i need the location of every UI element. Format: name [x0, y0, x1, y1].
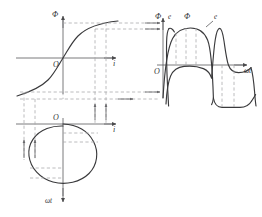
emf-label-leader: [206, 21, 213, 27]
current-origin-label: O: [53, 113, 59, 122]
flux-curve-label: Φ: [184, 12, 191, 21]
figure-container: Φ i O: [0, 0, 262, 217]
panel-current-versus-time: O i ωt: [16, 113, 116, 205]
magnetization-origin-label: O: [53, 60, 59, 69]
flux-lobe-positive: [163, 28, 213, 98]
flux-lobe-negative: [213, 98, 251, 107]
magnetization-y-axis-label: Φ: [52, 10, 59, 19]
flux-zero-cross: [212, 98, 214, 105]
panel-flux-emf-waveforms: Φ e Φ e O ωt: [154, 12, 256, 107]
projection-lines: [20, 23, 234, 178]
waveform-x-axis-label: ωt: [244, 67, 252, 75]
emf-rise-low: [166, 66, 212, 104]
emf-top-left-arc: [169, 28, 174, 32]
emf-curve-label: e: [214, 13, 218, 21]
magnetization-curve-path: [17, 21, 118, 96]
figure-svg: Φ i O: [0, 0, 262, 217]
magnetization-x-axis-label: i: [113, 59, 116, 68]
waveform-y-axis-label-secondary: e: [168, 13, 172, 21]
waveform-origin-label: O: [154, 67, 160, 76]
current-x-axis-label: i: [113, 125, 116, 134]
current-y-axis-label: ωt: [45, 197, 53, 205]
waveform-y-axis-label: Φ: [155, 12, 162, 21]
